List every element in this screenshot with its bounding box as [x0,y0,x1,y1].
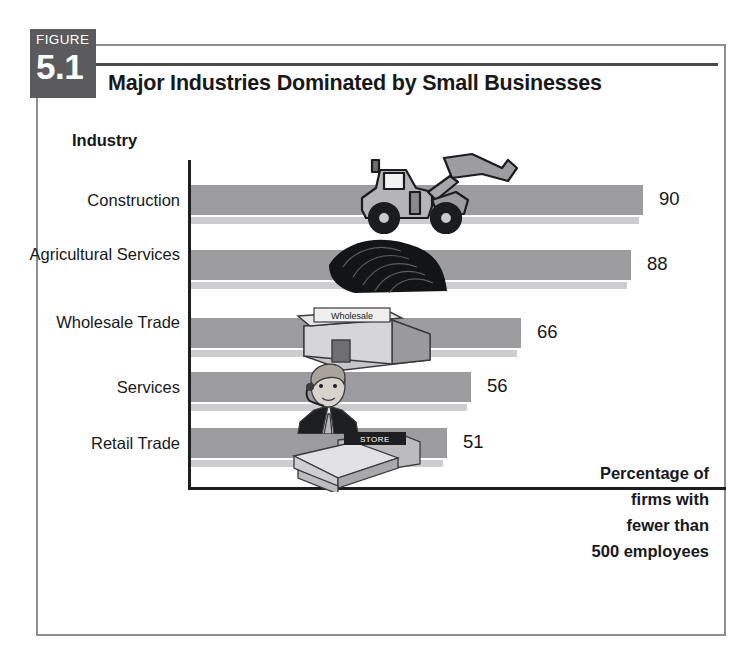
x-axis-caption-line: 500 employees [479,538,709,564]
bar [191,185,643,215]
bar-group [191,185,643,224]
category-label: Retail Trade [0,433,180,454]
bar [191,428,447,458]
category-label: Construction [0,190,180,211]
x-axis-caption: Percentage of firms with fewer than 500 … [479,460,709,564]
bar-shadow [191,282,627,289]
bar-value-label: 51 [463,431,484,453]
bar-value-label: 88 [647,253,668,275]
figure-container: FIGURE 5.1 Major Industries Dominated by… [0,0,743,655]
title-rule [96,63,718,66]
bar-shadow [191,217,639,224]
category-label-line: Trade [138,313,181,331]
bar-group [191,372,471,411]
category-label-line: Retail Trade [91,434,180,452]
bar-group [191,318,521,357]
table-row: Agricultural Services 88 [36,250,726,306]
category-label-line: Services [117,245,180,263]
bar-value-label: 66 [537,321,558,343]
bar-shadow [191,460,443,467]
table-row: Construction 90 [36,185,726,241]
bar [191,250,631,280]
category-label: Services [0,377,180,398]
table-row: Wholesale Trade 66 [36,318,726,374]
category-label-line: Services [117,378,180,396]
bar [191,318,521,348]
bar-value-label: 56 [487,375,508,397]
figure-badge-word: FIGURE [36,32,96,47]
category-label-line: Agricultural [30,245,113,263]
table-row: Services 56 [36,372,726,428]
bar-group [191,428,447,467]
figure-badge-number: 5.1 [36,48,96,85]
x-axis-caption-line: fewer than [479,512,709,538]
bar-value-label: 90 [659,188,680,210]
category-label: Wholesale Trade [0,312,180,333]
bar [191,372,471,402]
bar-shadow [191,350,517,357]
x-axis-caption-line: firms with [479,486,709,512]
figure-badge: FIGURE 5.1 [30,29,96,98]
category-label-line: Wholesale [56,313,133,331]
category-label-line: Construction [87,191,180,209]
category-label: Agricultural Services [0,244,180,265]
bar-shadow [191,404,467,411]
bar-group [191,250,631,289]
x-axis-caption-line: Percentage of [479,460,709,486]
